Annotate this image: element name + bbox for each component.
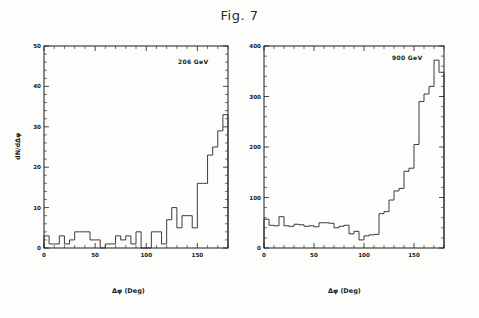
y-axis-tick-label: 20 bbox=[33, 164, 41, 170]
x-axis-tick-label: 150 bbox=[408, 252, 420, 258]
x-axis-tick-label: 100 bbox=[358, 252, 370, 258]
y-axis-tick-label: 300 bbox=[249, 94, 261, 100]
histogram-step-line bbox=[264, 60, 444, 248]
figure-container: Fig. 7 05010015001020304050 050100150010… bbox=[0, 0, 479, 318]
chart-panel-206gev: 05010015001020304050 bbox=[22, 40, 234, 278]
x-axis-title-right: Δφ (Deg) bbox=[328, 287, 361, 295]
plot-area-206gev: 05010015001020304050 bbox=[22, 40, 234, 278]
y-axis-tick-label: 30 bbox=[33, 124, 41, 130]
plot-frame bbox=[264, 46, 444, 248]
y-axis-tick-label: 400 bbox=[249, 43, 261, 49]
x-axis-tick-label: 50 bbox=[310, 252, 318, 258]
y-axis-tick-label: 50 bbox=[33, 43, 41, 49]
x-axis-tick-label: 100 bbox=[140, 252, 152, 258]
panel-annotation-energy-right: 900 GeV bbox=[392, 54, 422, 61]
plot-area-900gev: 0501001500100200300400 bbox=[238, 40, 450, 278]
y-axis-tick-label: 100 bbox=[249, 195, 261, 201]
chart-panel-900gev: 0501001500100200300400 bbox=[238, 40, 450, 278]
x-axis-tick-label: 150 bbox=[191, 252, 203, 258]
y-axis-tick-label: 0 bbox=[257, 245, 261, 251]
panel-annotation-energy-left: 206 GeV bbox=[178, 58, 208, 65]
y-axis-tick-label: 200 bbox=[249, 144, 261, 150]
y-axis-tick-label: 0 bbox=[37, 245, 41, 251]
x-axis-title-left: Δφ (Deg) bbox=[112, 287, 145, 295]
plot-frame bbox=[44, 46, 228, 248]
x-axis-tick-label: 0 bbox=[42, 252, 46, 258]
x-axis-tick-label: 50 bbox=[91, 252, 99, 258]
y-axis-tick-label: 10 bbox=[33, 205, 41, 211]
histogram-step-line bbox=[44, 115, 228, 248]
x-axis-tick-label: 0 bbox=[262, 252, 266, 258]
y-axis-tick-label: 40 bbox=[33, 83, 41, 89]
figure-title: Fig. 7 bbox=[0, 8, 479, 23]
y-axis-title-left: dN/dΔφ bbox=[14, 133, 22, 160]
